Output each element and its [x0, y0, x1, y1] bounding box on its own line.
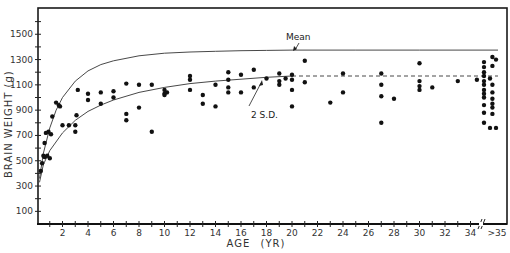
x-tick-label: 14	[210, 228, 222, 238]
data-point	[494, 57, 498, 61]
mean-annotation: Mean	[286, 32, 311, 42]
y-tick-label: 300	[16, 181, 33, 191]
data-point	[150, 83, 154, 87]
x-tick-label: 8	[136, 228, 142, 238]
x-tick-label: 34	[465, 228, 477, 238]
data-point	[277, 71, 281, 75]
data-point	[482, 111, 486, 115]
x-tick-label: 24	[337, 228, 349, 238]
data-point	[213, 83, 217, 87]
data-point	[60, 123, 64, 127]
data-point	[277, 83, 281, 87]
data-point	[482, 88, 486, 92]
y-tick-label: 100	[16, 206, 33, 216]
data-point	[86, 98, 90, 102]
data-point	[417, 61, 421, 65]
data-point	[67, 123, 71, 127]
data-point	[99, 102, 103, 106]
y-tick-label: 1300	[10, 55, 33, 65]
y-tick-label: 700	[16, 130, 33, 140]
data-point	[264, 76, 268, 80]
data-point	[490, 102, 494, 106]
data-point	[42, 141, 46, 145]
data-point	[328, 100, 332, 104]
x-tick-label: 28	[388, 228, 400, 238]
data-point	[430, 85, 434, 89]
data-point	[482, 74, 486, 78]
data-point	[475, 78, 479, 82]
data-point	[290, 73, 294, 77]
data-point	[379, 94, 383, 98]
x-tick-label: 12	[184, 228, 195, 238]
data-point	[58, 104, 62, 108]
y-tick-label: 1500	[10, 29, 33, 39]
data-point	[39, 169, 43, 173]
x-tick-label: 10	[159, 228, 171, 238]
x-tick-label: 20	[286, 228, 298, 238]
data-point	[482, 95, 486, 99]
data-point	[201, 93, 205, 97]
data-point	[226, 78, 230, 82]
data-point	[417, 88, 421, 92]
data-point	[290, 78, 294, 82]
data-point	[290, 104, 294, 108]
data-point	[456, 79, 460, 83]
data-point	[290, 88, 294, 92]
data-point	[303, 59, 307, 63]
x-tick-label: 18	[261, 228, 273, 238]
data-point	[341, 71, 345, 75]
x-tick-label: 16	[235, 228, 247, 238]
data-point	[239, 73, 243, 77]
data-point	[124, 81, 128, 85]
data-point	[252, 68, 256, 72]
data-point	[213, 104, 217, 108]
data-point	[74, 113, 78, 117]
data-point	[76, 88, 80, 92]
data-point	[188, 74, 192, 78]
data-point	[490, 112, 494, 116]
data-point	[137, 105, 141, 109]
data-point	[494, 126, 498, 130]
x-break-label: >35	[488, 228, 507, 238]
data-point	[417, 84, 421, 88]
data-point	[490, 90, 494, 94]
data-point	[99, 90, 103, 94]
data-point	[165, 90, 169, 94]
y-tick-label: 900	[16, 105, 33, 115]
data-point	[49, 132, 53, 136]
data-point	[40, 161, 44, 165]
data-point	[226, 90, 230, 94]
data-point	[239, 90, 243, 94]
data-point	[124, 112, 128, 116]
x-tick-label: 32	[439, 228, 450, 238]
data-point	[188, 78, 192, 82]
data-point	[482, 92, 486, 96]
data-point	[379, 121, 383, 125]
data-point	[482, 65, 486, 69]
data-point	[482, 103, 486, 107]
x-tick-label: 2	[60, 228, 66, 238]
data-point	[303, 80, 307, 84]
data-point	[490, 105, 494, 109]
data-point	[490, 64, 494, 68]
y-axis-title: BRAIN WEIGHT (g)	[3, 70, 14, 178]
data-point	[48, 156, 52, 160]
x-tick-label: 26	[363, 228, 375, 238]
data-point	[111, 89, 115, 93]
x-tick-label: 6	[111, 228, 117, 238]
data-point	[150, 130, 154, 134]
data-point	[73, 123, 77, 127]
x-axis: 246810121416182022242628303234>35	[37, 219, 507, 238]
x-tick-label: 4	[85, 228, 91, 238]
data-point	[137, 83, 141, 87]
data-point	[488, 126, 492, 130]
x-axis-title: AGE (YR)	[227, 238, 286, 249]
data-point	[482, 121, 486, 125]
data-point	[488, 76, 492, 80]
data-point	[226, 70, 230, 74]
x-tick-label: 30	[414, 228, 426, 238]
data-point	[50, 114, 54, 118]
data-point	[490, 83, 494, 87]
data-point	[124, 118, 128, 122]
data-point	[417, 79, 421, 83]
